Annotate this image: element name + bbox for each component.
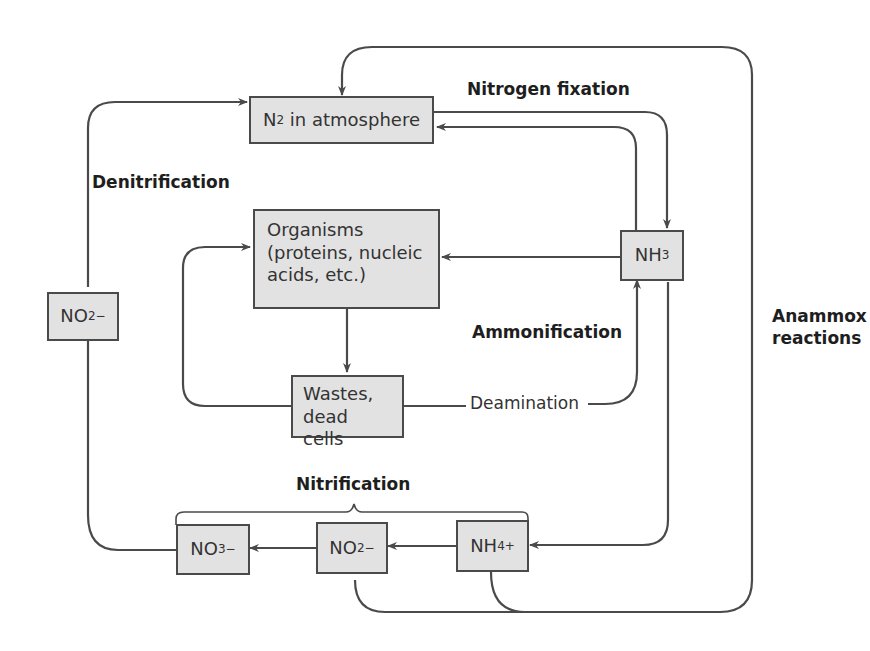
organisms-line1: Organisms bbox=[267, 219, 423, 242]
organisms-line2: (proteins, nucleic bbox=[267, 242, 423, 265]
nitrification-label: Nitrification bbox=[296, 474, 410, 494]
connector-lines bbox=[0, 0, 870, 651]
no3-main: NO bbox=[190, 538, 218, 561]
denitrification-label: Denitrification bbox=[92, 172, 230, 192]
n2-rest: in atmosphere bbox=[284, 109, 420, 132]
nh4-sub: 4 bbox=[497, 539, 505, 554]
organisms-line3: acids, etc.) bbox=[267, 264, 423, 287]
no3-sub: 3 bbox=[218, 542, 226, 557]
no2-bottom-sup: − bbox=[365, 541, 375, 556]
n2-atmosphere-node: N2 in atmosphere bbox=[249, 96, 434, 144]
wastes-node: Wastes, dead cells bbox=[291, 375, 404, 438]
no2-bottom-sub: 2 bbox=[357, 541, 365, 556]
wastes-line1: Wastes, bbox=[303, 383, 392, 406]
anammox-line1: Anammox bbox=[772, 305, 867, 327]
nh3-main: NH bbox=[635, 244, 662, 267]
no3-node: NO3− bbox=[176, 524, 250, 575]
wastes-line2: dead cells bbox=[303, 406, 392, 451]
no2-left-sub: 2 bbox=[88, 309, 96, 324]
nh4-node: NH4+ bbox=[456, 520, 529, 572]
no2-left-main: NO bbox=[60, 305, 88, 328]
no2-bottom-main: NO bbox=[329, 537, 357, 560]
anammox-line2: reactions bbox=[772, 327, 867, 349]
ammonification-label: Ammonification bbox=[472, 322, 622, 342]
nh3-node: NH3 bbox=[620, 230, 684, 281]
nh4-main: NH bbox=[470, 535, 497, 558]
n2-sub: 2 bbox=[276, 113, 284, 128]
nitrogen-fixation-label: Nitrogen fixation bbox=[467, 79, 630, 99]
anammox-label: Anammox reactions bbox=[772, 305, 867, 349]
organisms-node: Organisms (proteins, nucleic acids, etc.… bbox=[253, 209, 440, 309]
no2-left-node: NO2− bbox=[47, 292, 119, 341]
no2-left-sup: − bbox=[96, 309, 106, 324]
no3-sup: − bbox=[226, 542, 236, 557]
n2-main: N bbox=[263, 109, 276, 132]
deamination-label: Deamination bbox=[466, 393, 583, 413]
nh4-sup: + bbox=[505, 539, 515, 554]
nh3-sub: 3 bbox=[662, 248, 670, 263]
no2-bottom-node: NO2− bbox=[316, 522, 388, 574]
